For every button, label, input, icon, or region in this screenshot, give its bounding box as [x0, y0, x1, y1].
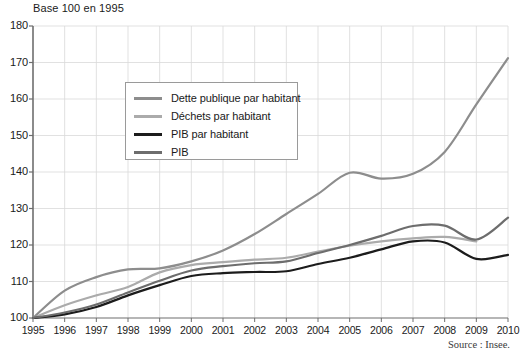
legend-label: Déchets par habitant: [171, 110, 271, 122]
legend-label: PIB: [171, 146, 188, 158]
legend-color-swatch: [134, 151, 162, 154]
x-tick-label: 1997: [79, 324, 113, 336]
legend-color-swatch: [134, 133, 162, 136]
x-tick-label: 1999: [143, 324, 177, 336]
x-tick-label: 2010: [491, 324, 524, 336]
legend-item: PIB par habitant: [134, 125, 248, 143]
legend-item: Dette publique par habitant: [134, 89, 300, 107]
x-tick-label: 1996: [48, 324, 82, 336]
legend-label: Dette publique par habitant: [171, 92, 300, 104]
x-tick-label: 2003: [269, 324, 303, 336]
x-tick-label: 1995: [16, 324, 50, 336]
legend-item: Déchets par habitant: [134, 107, 271, 125]
x-tick-label: 2004: [301, 324, 335, 336]
y-tick-label: 100: [2, 311, 28, 323]
legend-color-swatch: [134, 97, 162, 100]
x-tick-label: 2006: [364, 324, 398, 336]
x-tick-label: 2001: [206, 324, 240, 336]
legend-item: PIB: [134, 143, 188, 161]
x-tick-label: 1998: [111, 324, 145, 336]
x-tick-label: 2005: [333, 324, 367, 336]
y-tick-label: 140: [2, 165, 28, 177]
source-note: Source : Insee.: [448, 339, 510, 350]
y-tick-label: 120: [2, 238, 28, 250]
x-tick-label: 2002: [238, 324, 272, 336]
series-line: [33, 240, 508, 318]
y-tick-label: 110: [2, 275, 28, 287]
x-tick-label: 2009: [459, 324, 493, 336]
series-line: [33, 218, 508, 318]
x-tick-label: 2008: [428, 324, 462, 336]
y-tick-label: 160: [2, 92, 28, 104]
legend-label: PIB par habitant: [171, 128, 248, 140]
x-tick-label: 2007: [396, 324, 430, 336]
y-tick-label: 170: [2, 56, 28, 68]
x-tick-label: 2000: [174, 324, 208, 336]
y-tick-label: 130: [2, 202, 28, 214]
chart-legend: Dette publique par habitantDéchets par h…: [125, 82, 298, 160]
legend-color-swatch: [134, 115, 162, 118]
y-tick-label: 180: [2, 19, 28, 31]
y-tick-label: 150: [2, 129, 28, 141]
